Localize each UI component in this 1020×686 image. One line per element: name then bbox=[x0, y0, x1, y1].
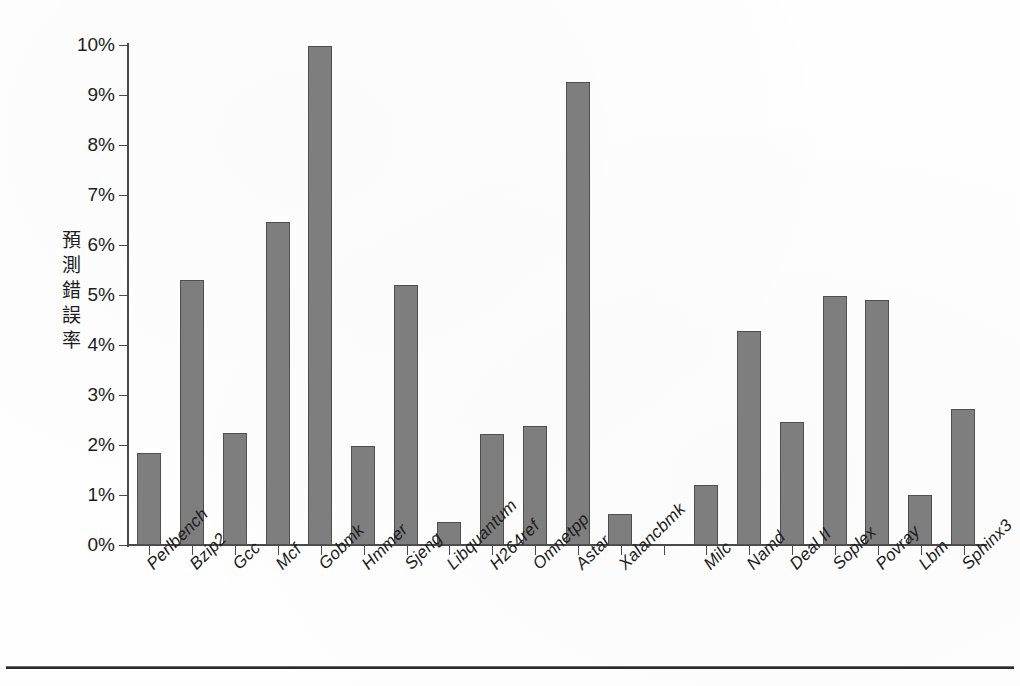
bar[interactable] bbox=[694, 485, 718, 545]
bar[interactable] bbox=[823, 296, 847, 545]
y-axis-tick-mark bbox=[119, 395, 128, 396]
x-axis-tick-mark bbox=[664, 546, 665, 555]
bar-slot bbox=[171, 45, 214, 545]
bar[interactable] bbox=[865, 300, 889, 545]
bar-slot bbox=[428, 45, 471, 545]
y-axis-tick-mark bbox=[119, 145, 128, 146]
bar-slot bbox=[942, 45, 985, 545]
y-axis-tick-label: 7% bbox=[88, 184, 115, 206]
bar-slot bbox=[599, 45, 642, 545]
chart-figure: 預測錯誤率 0%1%2%3%4%5%6%7%8%9%10% PerlbenchB… bbox=[0, 0, 1020, 686]
bar[interactable] bbox=[137, 453, 161, 545]
plot-area: 0%1%2%3%4%5%6%7%8%9%10% bbox=[128, 45, 985, 545]
y-axis-tick-mark bbox=[119, 495, 128, 496]
bar[interactable] bbox=[737, 331, 761, 545]
y-axis-title: 預測錯誤率 bbox=[56, 228, 86, 353]
y-axis-tick-mark bbox=[119, 95, 128, 96]
y-axis-tick-mark bbox=[119, 295, 128, 296]
y-axis-tick-label: 1% bbox=[88, 484, 115, 506]
bar[interactable] bbox=[780, 422, 804, 545]
bar[interactable] bbox=[308, 46, 332, 545]
bar-slot bbox=[214, 45, 257, 545]
y-axis-tick-mark bbox=[119, 195, 128, 196]
bar[interactable] bbox=[608, 514, 632, 545]
bar-slot bbox=[299, 45, 342, 545]
bar-slot bbox=[856, 45, 899, 545]
bar-slot bbox=[257, 45, 300, 545]
y-axis-tick-mark bbox=[119, 345, 128, 346]
y-axis-tick-label: 6% bbox=[88, 234, 115, 256]
bar-slot bbox=[342, 45, 385, 545]
bar[interactable] bbox=[180, 280, 204, 545]
y-axis-tick-label: 8% bbox=[88, 134, 115, 156]
bar-slot bbox=[685, 45, 728, 545]
y-axis-tick-label: 4% bbox=[88, 334, 115, 356]
y-axis-tick-mark bbox=[119, 45, 128, 46]
bar[interactable] bbox=[951, 409, 975, 545]
bar[interactable] bbox=[566, 82, 590, 545]
bar-slot bbox=[771, 45, 814, 545]
bar[interactable] bbox=[223, 433, 247, 545]
y-axis-tick-label: 0% bbox=[88, 534, 115, 556]
bar-slot bbox=[514, 45, 557, 545]
bar-slot bbox=[728, 45, 771, 545]
y-axis-tick-mark bbox=[119, 445, 128, 446]
y-axis-tick-mark bbox=[119, 545, 128, 546]
y-axis-tick-label: 10% bbox=[77, 34, 115, 56]
bar-slot bbox=[471, 45, 514, 545]
bar-slot bbox=[814, 45, 857, 545]
bar-slot bbox=[557, 45, 600, 545]
bar-slot bbox=[128, 45, 171, 545]
page-divider-rule bbox=[6, 666, 1014, 669]
y-axis-tick-mark bbox=[119, 245, 128, 246]
y-axis-tick-label: 3% bbox=[88, 384, 115, 406]
bar[interactable] bbox=[394, 285, 418, 545]
y-axis-tick-label: 9% bbox=[88, 84, 115, 106]
bar-slot bbox=[385, 45, 428, 545]
y-axis-tick-label: 2% bbox=[88, 434, 115, 456]
bar-slot bbox=[899, 45, 942, 545]
bar[interactable] bbox=[266, 222, 290, 545]
y-axis-tick-label: 5% bbox=[88, 284, 115, 306]
